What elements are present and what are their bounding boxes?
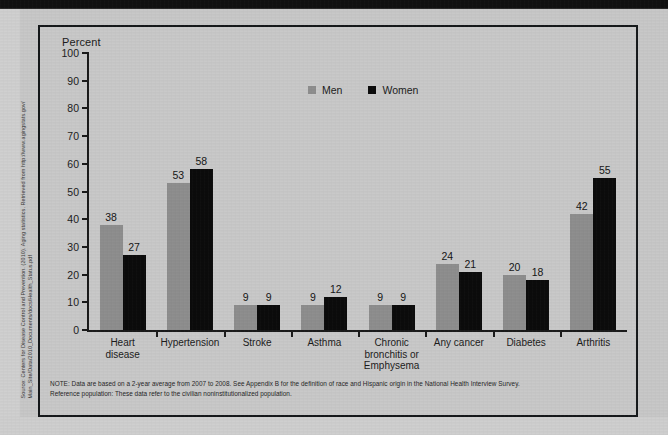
x-axis-label: Chronic bronchitis or Emphysema	[358, 337, 425, 372]
bar-value-label: 12	[330, 283, 342, 295]
scan-top-black-band	[0, 0, 668, 9]
scan-left-margin	[0, 9, 20, 417]
y-tick-100	[82, 52, 89, 54]
bar-value-label: 58	[196, 155, 208, 167]
bar-group: 3827	[89, 53, 156, 330]
bar-men: 53	[167, 183, 190, 330]
y-tick-0	[82, 329, 89, 331]
x-axis-label: Heart disease	[89, 337, 156, 360]
bar-value-label: 24	[442, 250, 454, 262]
bar-men: 38	[100, 225, 123, 330]
bar-men: 20	[503, 275, 526, 330]
y-tick-70	[82, 135, 89, 137]
y-tick-label-70: 70	[46, 130, 79, 142]
bar-women: 21	[459, 272, 482, 330]
bar-men: 9	[369, 305, 392, 330]
bar-women: 18	[526, 280, 549, 330]
y-tick-30	[82, 246, 89, 248]
bar-women: 12	[324, 297, 347, 330]
y-tick-80	[82, 107, 89, 109]
bar-group: 912	[291, 53, 358, 330]
bar-group: 99	[358, 53, 425, 330]
bar-value-label: 9	[400, 291, 406, 303]
bar-value-label: 21	[465, 258, 477, 270]
y-tick-10	[82, 301, 89, 303]
x-axis-label: Asthma	[291, 337, 358, 349]
plot-area: Percent 0102030405060708090100 Men Women…	[40, 27, 636, 365]
x-axis-label: Hypertension	[156, 337, 223, 349]
y-tick-50	[82, 191, 89, 193]
x-axis-label: Any cancer	[425, 337, 492, 349]
y-tick-label-80: 80	[46, 102, 79, 114]
bar-men: 42	[570, 214, 593, 330]
bar-women: 9	[257, 305, 280, 330]
bar-groups: 382753589991299242120184255	[89, 53, 627, 330]
bar-value-label: 20	[509, 261, 521, 273]
bar-group: 4255	[560, 53, 627, 330]
note-line-1: NOTE: Data are based on a 2-year average…	[50, 379, 628, 389]
bar-group: 5358	[156, 53, 223, 330]
y-tick-90	[82, 80, 89, 82]
bar-value-label: 55	[599, 164, 611, 176]
y-tick-label-0: 0	[46, 324, 79, 336]
bar-group: 2421	[425, 53, 492, 330]
bar-men: 24	[436, 264, 459, 330]
x-axis-label: Arthritis	[560, 337, 627, 349]
bar-group: 2018	[493, 53, 560, 330]
bar-women: 55	[593, 178, 616, 330]
y-tick-label-10: 10	[46, 296, 79, 308]
y-tick-label-40: 40	[46, 213, 79, 225]
y-tick-20	[82, 274, 89, 276]
bar-women: 9	[392, 305, 415, 330]
bar-value-label: 9	[377, 291, 383, 303]
bar-value-label: 42	[576, 200, 588, 212]
y-tick-label-90: 90	[46, 75, 79, 87]
bar-men: 9	[234, 305, 257, 330]
bar-value-label: 9	[310, 291, 316, 303]
bar-group: 99	[224, 53, 291, 330]
y-tick-label-100: 100	[46, 47, 79, 59]
y-tick-label-50: 50	[46, 186, 79, 198]
source-credit: Source: Centers for Disease Control and …	[20, 8, 35, 398]
x-axis-line	[87, 330, 627, 332]
y-tick-40	[82, 218, 89, 220]
x-axis-labels: Heart diseaseHypertensionStrokeAsthmaChr…	[89, 337, 627, 381]
bar-value-label: 27	[128, 241, 140, 253]
bar-men: 9	[301, 305, 324, 330]
y-tick-label-20: 20	[46, 269, 79, 281]
bar-women: 27	[123, 255, 146, 330]
y-tick-label-60: 60	[46, 158, 79, 170]
y-tick-label-30: 30	[46, 241, 79, 253]
page-canvas: Source: Centers for Disease Control and …	[0, 0, 668, 435]
x-axis-label: Diabetes	[493, 337, 560, 349]
bar-women: 58	[190, 169, 213, 330]
x-axis-label: Stroke	[224, 337, 291, 349]
figure-frame: Percent 0102030405060708090100 Men Women…	[38, 25, 638, 417]
bar-value-label: 18	[532, 266, 544, 278]
bar-value-label: 38	[105, 211, 117, 223]
bar-value-label: 53	[173, 169, 185, 181]
bar-value-label: 9	[243, 291, 249, 303]
y-tick-60	[82, 163, 89, 165]
note-line-2: Reference population: These data refer t…	[50, 389, 628, 399]
scan-bottom-margin	[0, 417, 668, 435]
figure-note: NOTE: Data are based on a 2-year average…	[50, 379, 628, 398]
bar-value-label: 9	[266, 291, 272, 303]
